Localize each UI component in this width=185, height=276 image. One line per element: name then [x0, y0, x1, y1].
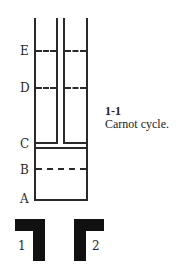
cylinder-bottom: [34, 199, 88, 201]
reservoir-2-stem: [74, 219, 86, 261]
piston-top-left: [34, 142, 58, 144]
cylinder-left-wall: [34, 18, 36, 201]
label-a: A: [20, 193, 29, 205]
piston-rod-left-wall: [56, 18, 58, 144]
level-e-left: [36, 50, 56, 52]
label-c: C: [20, 138, 29, 150]
label-e: E: [20, 45, 29, 57]
piston-bottom: [34, 147, 88, 149]
reservoir-1-label: 1: [18, 240, 26, 252]
label-d: D: [20, 82, 30, 94]
level-d-left: [36, 87, 56, 89]
figure-caption-text: Carnot cycle.: [105, 118, 169, 131]
reservoir-1-stem: [33, 219, 45, 261]
piston-top-right: [63, 142, 88, 144]
cylinder-right-wall: [86, 18, 88, 201]
level-d-right: [65, 87, 86, 89]
level-b: [36, 168, 86, 170]
piston-rod-right-wall: [63, 18, 65, 144]
level-e-right: [65, 50, 86, 52]
reservoir-2-label: 2: [92, 240, 100, 252]
label-b: B: [20, 164, 29, 176]
